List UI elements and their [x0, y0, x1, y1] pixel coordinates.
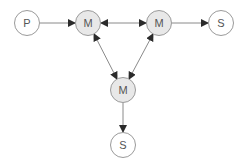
node-label: M	[118, 84, 127, 96]
node-label: M	[154, 17, 163, 29]
node-label: M	[83, 17, 92, 29]
node-m3: M	[111, 78, 136, 103]
node-label: S	[217, 17, 224, 29]
node-label: P	[23, 17, 30, 29]
node-p: P	[15, 11, 40, 36]
node-m2: M	[147, 11, 172, 36]
edge-m2-m3-bidirectional	[129, 34, 153, 79]
node-s1: S	[209, 11, 234, 36]
network-diagram: P M M S M S	[0, 0, 249, 161]
node-label: S	[119, 139, 126, 151]
node-s2: S	[111, 133, 136, 158]
node-m1: M	[76, 11, 101, 36]
edge-m1-m3-bidirectional	[94, 34, 117, 79]
